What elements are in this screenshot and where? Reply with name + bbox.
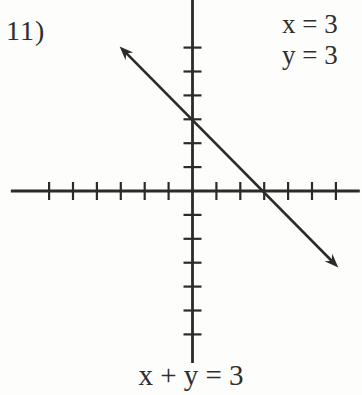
problem-number: 11) xyxy=(6,17,45,45)
answer-line-y: y = 3 xyxy=(282,40,338,71)
answer-block: x = 3 y = 3 xyxy=(282,9,338,71)
answer-line-x: x = 3 xyxy=(282,9,338,40)
worksheet-problem: 11) x = 3 y = 3 x + y = 3 xyxy=(0,0,362,395)
equation-label: x + y = 3 xyxy=(138,361,243,390)
plotted-line xyxy=(124,51,334,264)
